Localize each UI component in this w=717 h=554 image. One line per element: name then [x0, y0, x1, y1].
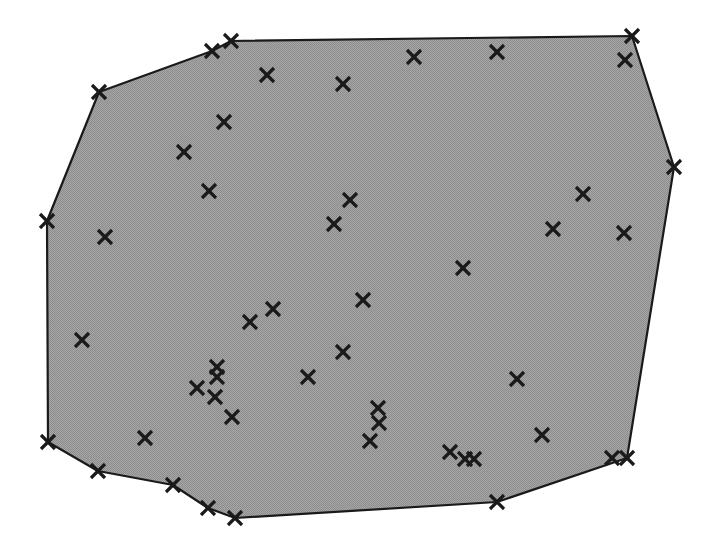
scatter-plot-canvas	[0, 0, 717, 554]
convex-hull-figure	[0, 0, 717, 554]
convex-hull-polygon	[47, 36, 674, 518]
